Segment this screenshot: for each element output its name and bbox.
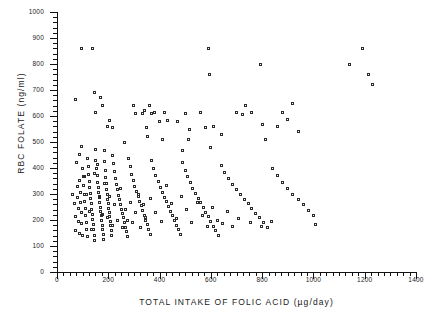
y-axis-minor-tick — [53, 189, 57, 190]
x-axis-minor-tick — [281, 272, 282, 276]
data-point — [129, 165, 132, 168]
data-point — [276, 174, 279, 177]
data-point — [73, 202, 76, 205]
data-point — [84, 214, 87, 217]
y-axis-minor-tick — [53, 28, 57, 29]
data-point — [194, 192, 197, 195]
y-axis-minor-tick — [53, 132, 57, 133]
data-point — [91, 213, 94, 216]
data-point — [196, 201, 199, 204]
data-point — [124, 208, 127, 211]
data-point — [141, 209, 144, 212]
data-point — [83, 200, 86, 203]
data-point — [104, 176, 107, 179]
data-point — [208, 73, 211, 76]
x-axis-minor-tick — [397, 272, 398, 276]
y-axis-tick-label: 100 — [8, 243, 44, 250]
x-axis-minor-tick — [134, 272, 135, 276]
data-point — [111, 126, 114, 129]
y-axis-minor-tick — [53, 178, 57, 179]
data-point — [103, 182, 106, 185]
x-axis-minor-tick — [70, 272, 71, 276]
data-point — [176, 120, 179, 123]
data-point — [125, 230, 128, 233]
data-point — [122, 216, 125, 219]
data-point — [231, 183, 234, 186]
data-point — [270, 220, 273, 223]
y-axis-minor-tick — [53, 225, 57, 226]
data-point — [209, 146, 212, 149]
y-axis-line — [57, 12, 58, 272]
data-point — [94, 159, 97, 162]
y-axis-minor-tick — [53, 95, 57, 96]
data-point — [76, 196, 79, 199]
x-axis-minor-tick — [83, 272, 84, 276]
scatter-plot-figure: 01002003004005006007008009001000 0200400… — [0, 0, 432, 320]
data-point — [137, 195, 140, 198]
data-point — [119, 203, 122, 206]
data-point — [107, 202, 110, 205]
y-axis-major-tick — [50, 64, 57, 65]
x-axis-minor-tick — [403, 272, 404, 276]
y-axis-major-tick — [50, 142, 57, 143]
data-point — [254, 212, 257, 215]
x-axis-minor-tick — [384, 272, 385, 276]
data-point — [89, 197, 92, 200]
data-point — [264, 138, 267, 141]
data-point — [129, 201, 132, 204]
data-point — [115, 183, 118, 186]
data-point — [170, 202, 173, 205]
y-axis-tick-label: 600 — [8, 113, 44, 120]
data-point — [237, 217, 240, 220]
data-point — [367, 73, 370, 76]
data-point — [107, 207, 110, 210]
y-axis-tick-label: 0 — [8, 269, 44, 276]
y-axis-minor-tick — [53, 163, 57, 164]
data-point — [250, 207, 253, 210]
data-point — [78, 179, 81, 182]
data-point — [177, 228, 180, 231]
data-point — [99, 210, 102, 213]
data-point — [145, 126, 148, 129]
data-point — [75, 161, 78, 164]
data-point — [348, 63, 351, 66]
data-point — [302, 203, 305, 206]
x-axis-minor-tick — [128, 272, 129, 276]
plot-area — [57, 12, 416, 272]
x-axis-minor-tick — [192, 272, 193, 276]
data-point — [286, 187, 289, 190]
x-axis-minor-tick — [288, 272, 289, 276]
x-axis-minor-tick — [294, 272, 295, 276]
data-point — [163, 196, 166, 199]
data-point — [108, 119, 111, 122]
x-axis-tick-label: 1000 — [293, 277, 333, 284]
y-axis-minor-tick — [53, 210, 57, 211]
data-point — [132, 179, 135, 182]
data-point — [189, 181, 192, 184]
data-point — [281, 111, 284, 114]
data-point — [185, 208, 188, 211]
data-point — [97, 191, 100, 194]
y-axis-minor-tick — [53, 121, 57, 122]
data-point — [99, 206, 102, 209]
y-axis-minor-tick — [53, 262, 57, 263]
data-point — [78, 153, 81, 156]
x-axis-minor-tick — [243, 272, 244, 276]
data-point — [161, 191, 164, 194]
data-point — [291, 102, 294, 105]
data-point — [201, 214, 204, 217]
data-point — [108, 211, 111, 214]
data-point — [150, 159, 153, 162]
data-point — [79, 191, 82, 194]
data-point — [80, 211, 83, 214]
data-point — [104, 169, 107, 172]
data-point — [96, 174, 99, 177]
data-point — [123, 221, 126, 224]
data-point — [271, 167, 274, 170]
y-axis-minor-tick — [53, 236, 57, 237]
data-point — [181, 161, 184, 164]
data-point — [147, 228, 150, 231]
data-point — [95, 167, 98, 170]
data-point — [113, 170, 116, 173]
data-point — [281, 181, 284, 184]
